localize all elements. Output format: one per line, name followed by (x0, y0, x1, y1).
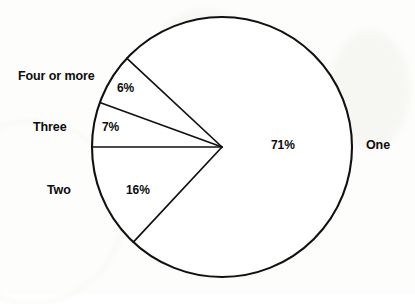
slice-category-label-one: One (366, 139, 390, 152)
slice-category-label-two: Two (47, 184, 71, 197)
slice-value-label-two: 16% (126, 184, 150, 196)
slice-category-label-four-or-more: Four or more (18, 70, 95, 83)
slice-value-label-three: 7% (102, 121, 119, 133)
slice-value-label-one: 71% (271, 139, 295, 151)
slice-category-label-three: Three (33, 121, 67, 134)
slice-value-label-four-or-more: 6% (117, 82, 134, 94)
